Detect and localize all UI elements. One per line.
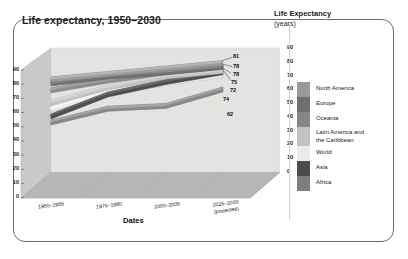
legend-label-latin-america: Latin America and the Caribbean bbox=[316, 127, 364, 144]
legend-label-world: World bbox=[316, 146, 332, 157]
legend-item-latin-america[interactable]: Latin America and the Caribbean bbox=[297, 127, 397, 146]
y-axis-left-tick-80: 80 bbox=[5, 80, 19, 86]
legend-swatch-world bbox=[297, 146, 310, 161]
data-label-latin-america: 75 bbox=[231, 79, 237, 85]
data-label-north-america: 81 bbox=[233, 53, 239, 59]
plot-3d-svg bbox=[18, 34, 280, 209]
data-label-world: 72 bbox=[230, 87, 236, 93]
legend-item-europe[interactable]: Europe bbox=[297, 97, 397, 112]
legend-swatch-europe bbox=[297, 97, 310, 112]
y-axis-left-tick-70: 70 bbox=[5, 94, 19, 100]
legend-swatch-latin-america bbox=[297, 127, 310, 146]
y-axis-left-tick-50: 50 bbox=[5, 122, 19, 128]
y-axis-left-tick-20: 20 bbox=[5, 165, 19, 171]
legend-label-europe: Europe bbox=[316, 97, 335, 108]
legend-label-africa: Africa bbox=[316, 176, 331, 187]
legend-item-africa[interactable]: Africa bbox=[297, 176, 397, 191]
y-axis-left-tick-0: 0 bbox=[5, 193, 19, 199]
data-label-asia: 74 bbox=[223, 96, 229, 102]
y-axis-left-tick-30: 30 bbox=[5, 151, 19, 157]
plot-area: 90 80 70 60 50 40 30 20 10 0 90 80 70 60… bbox=[18, 34, 280, 209]
legend-item-world[interactable]: World bbox=[297, 146, 397, 161]
legend-swatch-asia bbox=[297, 161, 310, 176]
legend-label-asia: Asia bbox=[316, 161, 328, 172]
right-axis-title-text: Life Expectancy bbox=[274, 9, 331, 18]
legend: North America Europe Oceania Latin Ameri… bbox=[297, 82, 397, 191]
legend-label-oceania: Oceania bbox=[316, 112, 338, 123]
y-axis-left-tick-60: 60 bbox=[5, 108, 19, 114]
floor-plane bbox=[21, 172, 280, 198]
chart-title: Life expectancy, 1950–2030 bbox=[22, 14, 161, 26]
legend-swatch-oceania bbox=[297, 112, 310, 127]
y-axis-left-tick-40: 40 bbox=[5, 136, 19, 142]
figure-canvas: Life expectancy, 1950–2030 Life Expectan… bbox=[0, 0, 408, 259]
left-wall-plane bbox=[21, 48, 51, 198]
data-label-africa: 62 bbox=[227, 111, 233, 117]
y-axis-left-tick-10: 10 bbox=[5, 179, 19, 185]
legend-item-asia[interactable]: Asia bbox=[297, 161, 397, 176]
data-label-europe: 78 bbox=[233, 63, 239, 69]
right-axis-title: Life Expectancy (years) bbox=[274, 9, 331, 29]
legend-swatch-africa bbox=[297, 176, 310, 191]
legend-swatch-north-america bbox=[297, 82, 310, 97]
legend-item-north-america[interactable]: North America bbox=[297, 82, 397, 97]
legend-divider bbox=[289, 24, 290, 220]
data-label-oceania: 78 bbox=[233, 71, 239, 77]
y-axis-left-tick-90: 90 bbox=[5, 66, 19, 72]
right-axis-unit-text: (years) bbox=[274, 20, 296, 27]
legend-item-oceania[interactable]: Oceania bbox=[297, 112, 397, 127]
legend-label-north-america: North America bbox=[316, 82, 354, 93]
x-axis-title: Dates bbox=[123, 216, 144, 225]
